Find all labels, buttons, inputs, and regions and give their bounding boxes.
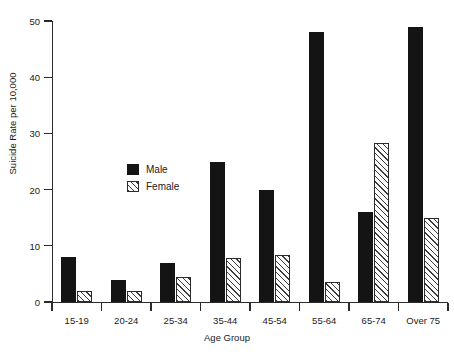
bar-female-over-75 — [424, 218, 439, 302]
x-tick-label-55-64: 55-64 — [312, 315, 336, 326]
bar-female-25-34 — [176, 277, 191, 302]
y-tick-10: 10 — [44, 245, 52, 246]
bar-chart: 01020304050 15-1920-2425-3435-4445-5455-… — [0, 0, 454, 355]
bar-male-65-74 — [358, 212, 373, 302]
bar-female-15-19 — [77, 291, 92, 302]
x-tick-label-65-74: 65-74 — [362, 315, 386, 326]
x-tick-3 — [200, 303, 201, 311]
bar-male-35-44 — [210, 162, 225, 303]
y-tick-label-0: 0 — [35, 296, 40, 307]
y-tick-label-20: 20 — [29, 184, 40, 195]
bar-female-20-24 — [127, 291, 142, 302]
bar-female-55-64 — [325, 282, 340, 302]
legend-item-female: Female — [127, 178, 179, 195]
y-tick-label-10: 10 — [29, 240, 40, 251]
legend-label-female: Female — [146, 182, 179, 192]
y-tick-label-30: 30 — [29, 128, 40, 139]
y-tick-label-40: 40 — [29, 72, 40, 83]
x-tick-label-15-19: 15-19 — [65, 315, 89, 326]
bar-male-over-75 — [408, 27, 423, 302]
legend-swatch-male-icon — [127, 164, 139, 175]
bar-male-45-54 — [259, 190, 274, 302]
bar-male-25-34 — [160, 263, 175, 302]
legend-item-male: Male — [127, 161, 179, 178]
bars-layer — [52, 21, 448, 302]
x-tick-label-35-44: 35-44 — [213, 315, 237, 326]
y-tick-40: 40 — [44, 77, 52, 78]
bar-female-45-54 — [275, 255, 290, 302]
x-tick-label-over-75: Over 75 — [406, 315, 440, 326]
x-tick-0 — [51, 303, 52, 311]
x-tick-1 — [101, 303, 102, 311]
bar-male-20-24 — [111, 280, 126, 302]
x-tick-4 — [249, 303, 250, 311]
bar-male-15-19 — [61, 257, 76, 302]
y-tick-label-50: 50 — [29, 15, 40, 26]
x-tick-5 — [299, 303, 300, 311]
legend-swatch-female-icon — [127, 181, 139, 192]
y-tick-30: 30 — [44, 133, 52, 134]
x-tick-2 — [150, 303, 151, 311]
bar-female-65-74 — [374, 143, 389, 302]
x-tick-6 — [348, 303, 349, 311]
y-axis-label: Suicide Rate per 10,000 — [7, 34, 18, 214]
x-axis-label: Age Group — [0, 332, 454, 343]
x-tick-label-25-34: 25-34 — [164, 315, 188, 326]
x-tick-8 — [447, 303, 448, 311]
y-tick-50: 50 — [44, 20, 52, 21]
legend: Male Female — [127, 161, 179, 195]
legend-label-male: Male — [146, 165, 168, 175]
x-tick-label-20-24: 20-24 — [114, 315, 138, 326]
bar-male-55-64 — [309, 32, 324, 302]
x-tick-7 — [398, 303, 399, 311]
y-tick-20: 20 — [44, 189, 52, 190]
x-tick-label-45-54: 45-54 — [263, 315, 287, 326]
bar-female-35-44 — [226, 258, 241, 302]
